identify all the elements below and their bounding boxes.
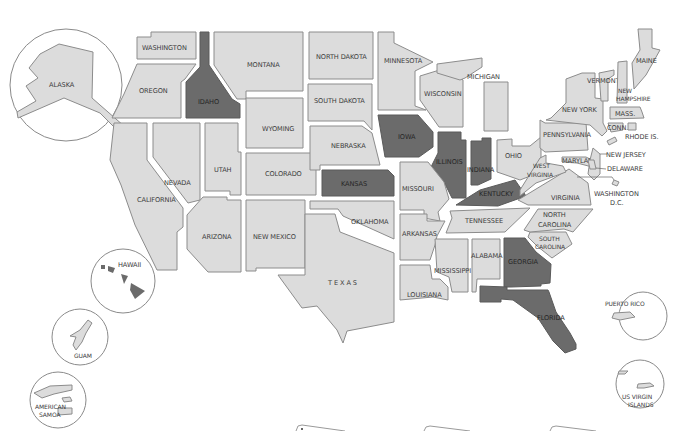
label-new-york: NEW YORK (562, 106, 597, 114)
label-american-samoa-2: SAMOA (39, 411, 61, 418)
label-south-dakota: SOUTH DAKOTA (314, 97, 365, 105)
card-dot (301, 428, 303, 430)
label-connecticut: CONN. (607, 124, 628, 132)
state-long-island (607, 137, 617, 145)
label-wisconsin: WISCONSIN (424, 90, 462, 98)
state-indiana[interactable] (471, 138, 491, 185)
label-florida: FLORIDA (537, 314, 565, 322)
inset-alaska[interactable]: ALASKA (10, 29, 124, 141)
label-arkansas: ARKANSAS (402, 230, 437, 238)
label-massachusetts: MASS. (615, 110, 635, 118)
label-nebraska: NEBRASKA (331, 142, 366, 150)
label-washington-dc-2: D.C. (610, 199, 623, 207)
label-new-jersey: NEW JERSEY (606, 151, 647, 159)
label-new-hampshire-1: NEW (618, 87, 632, 94)
label-north-carolina-1: NORTH (543, 211, 566, 219)
state-south-dakota[interactable] (308, 84, 372, 130)
label-louisiana: LOUISIANA (407, 291, 442, 299)
label-kansas: KANSAS (341, 180, 367, 188)
label-washington: WASHINGTON (142, 44, 187, 52)
label-puerto-rico: PUERTO RICO (605, 300, 645, 307)
card-edge-2 (424, 426, 470, 431)
label-guam: GUAM (74, 352, 92, 359)
label-california: CALIFORNIA (137, 196, 176, 204)
label-north-dakota: NORTH DAKOTA (316, 53, 367, 61)
inset-puerto-rico[interactable]: PUERTO RICO (605, 292, 667, 340)
label-texas: T E X A S (327, 279, 357, 287)
us-map: ALASKA WASHINGTON OREGON IDAHO CALIFORNI… (0, 0, 688, 431)
label-georgia: GEORGIA (508, 258, 539, 266)
label-missouri: MISSOURI (402, 185, 434, 193)
label-maine: MAINE (636, 57, 657, 65)
label-wyoming: WYOMING (262, 125, 294, 133)
label-virginia: VIRGINIA (551, 194, 580, 202)
label-pennsylvania: PENNSYLVANIA (543, 131, 592, 139)
inset-american-samoa[interactable]: AMERICAN SAMOA (30, 372, 86, 428)
label-kentucky: KENTUCKY (479, 190, 514, 198)
label-west-virginia-1: WEST (533, 162, 550, 169)
state-alabama[interactable] (472, 239, 500, 292)
label-south-carolina-2: CAROLINA (535, 243, 566, 250)
card-edge-1 (296, 425, 345, 431)
label-new-hampshire-2: HAMPSHIRE (616, 95, 651, 102)
state-vermont[interactable] (599, 70, 614, 101)
label-american-samoa-1: AMERICAN (35, 403, 66, 410)
label-montana: MONTANA (247, 61, 280, 69)
label-hawaii: HAWAII (118, 261, 141, 269)
label-rhode-island: RHODE IS. (625, 133, 658, 141)
inset-guam[interactable]: GUAM (52, 309, 108, 365)
label-new-mexico: NEW MEXICO (253, 233, 296, 241)
label-colorado: COLORADO (265, 170, 302, 178)
label-oregon: OREGON (139, 87, 168, 95)
label-nevada: NEVADA (164, 179, 191, 187)
state-wyoming[interactable] (246, 98, 303, 148)
label-idaho: IDAHO (198, 98, 219, 106)
state-utah[interactable] (205, 123, 241, 195)
label-alaska: ALASKA (49, 81, 75, 89)
label-ohio: OHIO (505, 152, 522, 160)
hawaii-island-1 (101, 265, 105, 269)
label-arizona: ARIZONA (202, 233, 232, 241)
label-indiana: INDIANA (467, 166, 495, 174)
card-edge-3 (550, 426, 596, 431)
label-iowa: IOWA (398, 133, 416, 141)
label-west-virginia-2: VIRGINIA (527, 171, 554, 178)
label-delaware: DELAWARE (607, 165, 643, 173)
hawaii-ring (91, 249, 155, 313)
label-south-carolina-1: SOUTH (539, 235, 560, 242)
label-utah: UTAH (214, 166, 232, 174)
label-us-virgin-islands-1: US VIRGIN (622, 393, 652, 400)
label-oklahoma: OKLAHOMA (351, 218, 389, 226)
label-vermont: VERMONT (587, 77, 620, 85)
label-us-virgin-islands-2: ISLANDS (628, 401, 654, 408)
label-illinois: ILLINOIS (436, 158, 463, 166)
inset-hawaii[interactable]: HAWAII (91, 249, 155, 313)
american-samoa-ring (30, 372, 86, 428)
state-delaware[interactable] (588, 160, 596, 169)
label-alabama: ALABAMA (471, 252, 503, 260)
label-minnesota: MINNESOTA (384, 57, 423, 65)
label-michigan: MICHIGAN (467, 73, 500, 81)
state-michigan-lower[interactable] (484, 82, 508, 131)
state-rhode-island[interactable] (628, 123, 636, 130)
label-tennessee: TENNESSEE (464, 217, 503, 225)
inset-us-virgin-islands[interactable]: US VIRGIN ISLANDS (616, 360, 664, 408)
state-washington-dc[interactable] (612, 180, 619, 186)
label-washington-dc-1: WASHINGTON (594, 190, 639, 198)
label-mississippi: MISSISSIPPI (434, 267, 471, 275)
samoa-island-2 (62, 397, 72, 402)
label-north-carolina-2: CAROLINA (538, 221, 572, 229)
